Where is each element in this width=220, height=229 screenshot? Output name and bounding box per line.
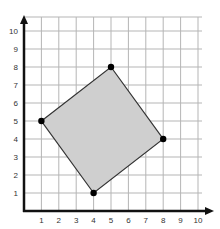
x-tick-label: 2: [57, 216, 62, 225]
y-tick-label: 3: [14, 153, 19, 162]
y-tick-label: 1: [14, 189, 19, 198]
x-tick-labels: 12345678910: [39, 216, 203, 225]
x-tick-label: 7: [144, 216, 149, 225]
x-tick-label: 8: [161, 216, 166, 225]
vertex-point: [90, 190, 96, 196]
x-axis-arrow-icon: [205, 207, 214, 215]
y-tick-label: 8: [14, 63, 19, 72]
vertex-point: [160, 136, 166, 142]
y-tick-label: 10: [9, 27, 18, 36]
y-axis-arrow-icon: [20, 15, 28, 24]
x-tick-label: 4: [91, 216, 96, 225]
y-tick-label: 4: [14, 135, 19, 144]
y-tick-label: 7: [14, 81, 19, 90]
y-tick-label: 2: [14, 171, 19, 180]
quadrilateral-shape: [41, 67, 163, 193]
x-tick-label: 3: [74, 216, 79, 225]
y-tick-label: 6: [14, 99, 19, 108]
y-tick-label: 5: [14, 117, 19, 126]
x-tick-label: 5: [109, 216, 114, 225]
x-tick-label: 1: [39, 216, 44, 225]
x-tick-label: 9: [178, 216, 183, 225]
y-tick-label: 9: [14, 45, 19, 54]
vertex-point: [38, 118, 44, 124]
y-tick-labels: 12345678910: [9, 27, 18, 198]
coordinate-grid-chart: 12345678910 12345678910: [0, 0, 220, 229]
x-tick-label: 6: [126, 216, 131, 225]
vertex-point: [108, 64, 114, 70]
x-tick-label: 10: [194, 216, 203, 225]
